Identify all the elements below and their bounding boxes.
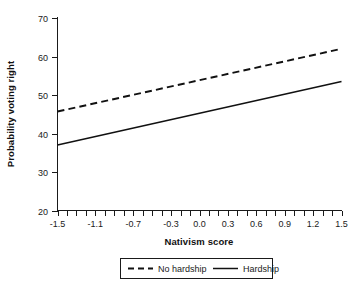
x-tick-label: -0.7 [125, 219, 141, 229]
x-tick-label: 1.5 [335, 219, 348, 229]
x-tick-label: 0.9 [278, 219, 291, 229]
chart-legend: No hardship Hardship [121, 259, 280, 279]
line-chart: Probability voting right Nativism score … [0, 0, 357, 293]
x-axis-title: Nativism score [165, 236, 234, 247]
y-tick-label: 70 [38, 14, 48, 24]
y-tick-label: 20 [38, 207, 48, 217]
x-tick-label: 0.3 [222, 219, 235, 229]
chart-background [0, 0, 357, 293]
y-tick-label: 40 [38, 130, 48, 140]
y-axis-title: Probability voting right [5, 60, 16, 167]
y-tick-label: 60 [38, 53, 48, 63]
x-tick-label: 0.0 [193, 219, 206, 229]
y-tick-label: 30 [38, 168, 48, 178]
x-tick-label: -1.5 [50, 219, 66, 229]
x-tick-label: -0.3 [163, 219, 179, 229]
y-tick-label: 50 [38, 91, 48, 101]
legend-label-hardship: Hardship [243, 264, 279, 274]
legend-label-no-hardship: No hardship [158, 264, 207, 274]
x-tick-label: 0.6 [250, 219, 263, 229]
x-tick-label: 1.2 [307, 219, 320, 229]
x-tick-label: -1.1 [88, 219, 104, 229]
chart-figure: Probability voting right Nativism score … [0, 0, 357, 293]
